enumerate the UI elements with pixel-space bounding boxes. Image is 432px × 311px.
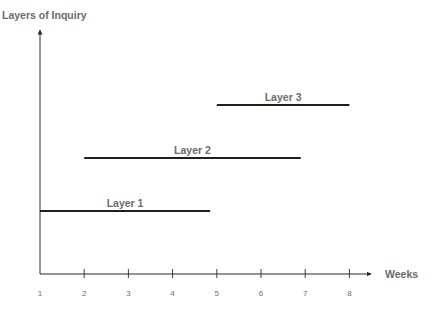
y-axis-title: Layers of Inquiry xyxy=(2,9,87,21)
x-tick-label: 8 xyxy=(347,289,352,298)
x-tick-label: 6 xyxy=(259,289,264,298)
x-tick-label: 7 xyxy=(303,289,308,298)
layer-label: Layer 1 xyxy=(107,197,144,209)
x-tick-label: 3 xyxy=(126,289,131,298)
x-tick-label: 2 xyxy=(82,289,87,298)
x-axis-title: Weeks xyxy=(385,268,418,280)
x-tick-label: 4 xyxy=(170,289,175,298)
layer-bars: Layer 1Layer 2Layer 3 xyxy=(40,91,349,211)
timeline-chart: Layers of Inquiry Weeks 12345678 Layer 1… xyxy=(0,0,432,311)
x-tick-label: 5 xyxy=(215,289,220,298)
layer-label: Layer 2 xyxy=(174,144,211,156)
x-axis-ticks: 12345678 xyxy=(38,269,352,298)
layer-label: Layer 3 xyxy=(265,91,302,103)
x-tick-label: 1 xyxy=(38,289,43,298)
